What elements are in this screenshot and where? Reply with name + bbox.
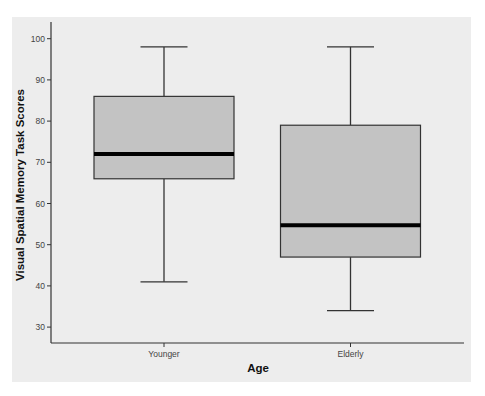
x-tick-label-younger: Younger (148, 349, 180, 359)
y-tick-label: 40 (36, 281, 46, 291)
y-tick-label: 80 (36, 116, 46, 126)
boxplot-chart: 30405060708090100 YoungerElderly Visual … (0, 0, 485, 396)
y-tick-label: 60 (36, 199, 46, 209)
y-tick-label: 70 (36, 157, 46, 167)
y-tick-label: 100 (31, 34, 45, 44)
y-tick-label: 90 (36, 75, 46, 85)
iqr-box (94, 96, 234, 178)
x-axis-title: Age (247, 362, 269, 374)
x-tick-label-elderly: Elderly (338, 349, 365, 359)
y-tick-label: 50 (36, 240, 46, 250)
y-tick-label: 30 (36, 322, 46, 332)
y-axis-title: Visual Spatial Memory Task Scores (14, 89, 26, 281)
iqr-box (281, 125, 421, 257)
